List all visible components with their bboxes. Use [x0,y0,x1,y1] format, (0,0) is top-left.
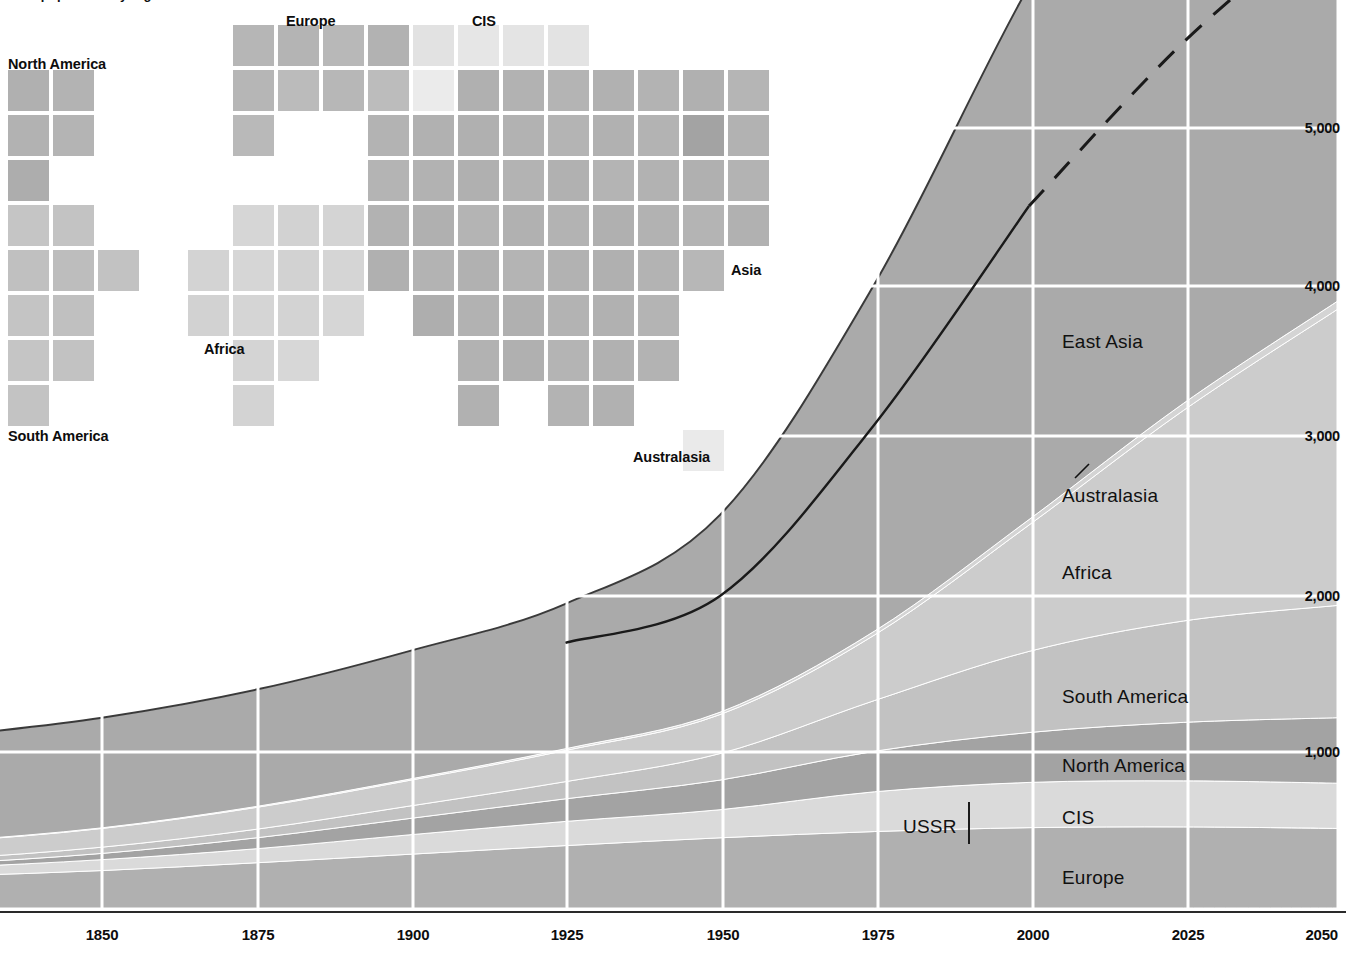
map-tile [458,70,499,111]
map-tile [53,70,94,111]
map-tile [503,340,544,381]
map-tile [683,205,724,246]
map-tile [278,205,319,246]
series-label-cis: CIS [1062,807,1094,829]
map-tile [368,25,409,66]
map-tile [323,70,364,111]
ussr-annotation-tick [968,802,970,844]
map-tile [548,160,589,201]
map-tile [638,115,679,156]
map-tile [593,160,634,201]
map-tile [458,250,499,291]
map-tile [593,295,634,336]
map-tile [368,160,409,201]
map-tile [503,70,544,111]
x-axis-tick-label: 1850 [86,926,119,943]
map-tile [548,385,589,426]
x-axis-tick-label: 2025 [1172,926,1205,943]
map-tile [413,250,454,291]
map-tile [8,160,49,201]
y-axis-tick-label: 3,000 [1305,428,1340,444]
series-label-north-america: North America [1062,755,1185,777]
map-tile [233,25,274,66]
map-tile [233,115,274,156]
map-tile [458,205,499,246]
map-tile [323,295,364,336]
map-tile [548,250,589,291]
map-tile [638,205,679,246]
map-tile [683,115,724,156]
map-label-europe: Europe [286,14,335,29]
map-tile [548,70,589,111]
map-tile [548,295,589,336]
map-tile [458,385,499,426]
map-tile [728,160,769,201]
map-tile [413,115,454,156]
x-axis-tick-label: 1900 [397,926,430,943]
map-tile [8,70,49,111]
x-axis: 185018751900192519501975200020252050 [0,911,1346,953]
map-tile [728,115,769,156]
y-axis-tick-label: 5,000 [1305,120,1340,136]
map-tile [548,115,589,156]
map-tile [188,295,229,336]
map-tile [458,340,499,381]
map-tile [368,115,409,156]
x-axis-rule [0,911,1346,913]
map-tile [53,340,94,381]
map-tile [53,295,94,336]
map-tile [638,160,679,201]
map-tile [278,70,319,111]
map-tile [278,295,319,336]
map-tile [8,340,49,381]
map-tile [638,250,679,291]
map-tile [233,385,274,426]
map-tile [278,340,319,381]
map-tile [503,160,544,201]
map-label-australasia: Australasia [633,450,710,465]
map-tile [8,385,49,426]
map-tile [683,70,724,111]
map-tile [323,205,364,246]
map-tile [683,160,724,201]
map-tile [593,385,634,426]
map-tile [503,295,544,336]
map-tile [503,25,544,66]
x-axis-tick-label: 1950 [707,926,740,943]
map-tile [233,250,274,291]
map-tile [458,160,499,201]
map-tile [233,295,274,336]
map-tile [593,115,634,156]
map-tile [638,295,679,336]
map-tile [98,250,139,291]
series-label-south-america: South America [1062,686,1188,708]
map-tile [413,70,454,111]
map-tile [548,205,589,246]
map-tile [8,205,49,246]
y-axis-tick-label: 4,000 [1305,278,1340,294]
y-axis-tick-label: 1,000 [1305,744,1340,760]
map-tile [593,70,634,111]
map-tile [503,250,544,291]
y-axis-tick-label: 2,000 [1305,588,1340,604]
map-label-cis: CIS [472,14,496,29]
map-label-north-america: North America [8,57,106,72]
map-tile [638,70,679,111]
map-tile [458,25,499,66]
map-tile [593,250,634,291]
map-tile [728,70,769,111]
map-tile [8,250,49,291]
map-tile [368,250,409,291]
map-tile [683,250,724,291]
map-tile [233,205,274,246]
map-tile [503,115,544,156]
x-axis-tick-label: 2000 [1017,926,1050,943]
map-tile [728,205,769,246]
map-label-asia: Asia [731,263,761,278]
map-tile [458,295,499,336]
map-tile [278,25,319,66]
map-tile [413,295,454,336]
map-tile [368,70,409,111]
map-tile [638,340,679,381]
x-axis-tick-label: 1925 [551,926,584,943]
